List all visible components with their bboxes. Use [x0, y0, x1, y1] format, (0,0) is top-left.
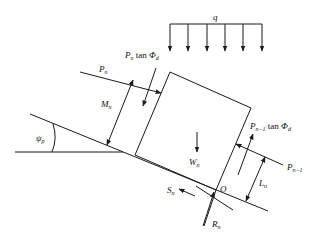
label-wn: Wn [189, 157, 200, 168]
pn1-tan-force-arrow [238, 134, 253, 175]
slice-block [135, 72, 251, 190]
label-pn1-tan-phi: Pn−1 tan Φd [249, 121, 292, 132]
label-o: O [220, 184, 227, 194]
angle-arc-psi [52, 124, 55, 152]
sn-force-arrow [179, 189, 195, 196]
label-rn: Rn [211, 219, 221, 230]
label-pn-tan-phi: Pn tan Φd [124, 50, 160, 61]
slip-surface-line [30, 114, 268, 211]
pn-tan-force-arrow [143, 68, 156, 106]
label-psi: ψp [36, 133, 45, 144]
label-sn: Sn [167, 185, 175, 196]
distributed-load-q [170, 24, 262, 51]
label-pn: Pn [98, 64, 108, 75]
mn-dimension-arrow [107, 80, 133, 145]
label-mn: Mn [100, 99, 112, 110]
slope-block-diagram: q Pn tan Φd Pn Mn ψp Wn Pn−1 tan Φd Pn−1… [0, 0, 314, 237]
label-q: q [213, 12, 218, 22]
label-pn1: Pn−1 [286, 162, 303, 173]
label-ln: Ln [258, 178, 267, 189]
